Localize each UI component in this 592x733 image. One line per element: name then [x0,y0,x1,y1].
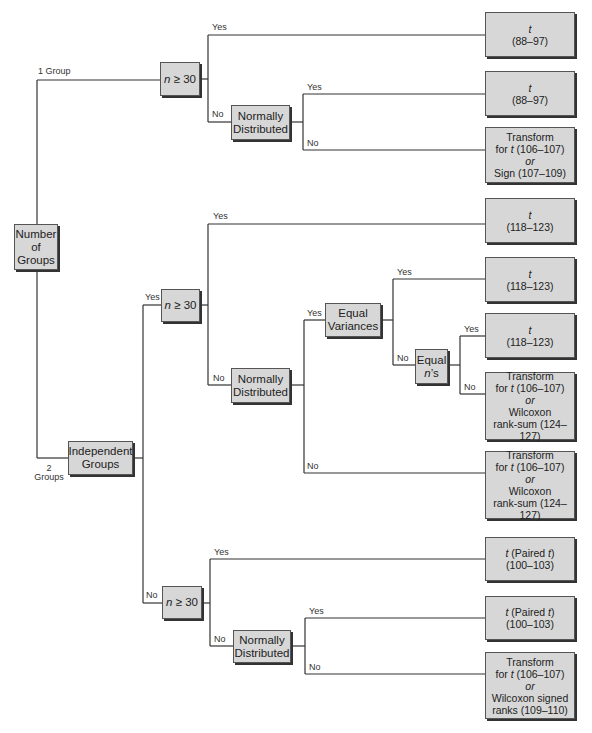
root-line: Groups [17,254,55,267]
text-line: (118–123) [506,336,553,348]
label-no: No [307,138,319,148]
leaf-transform-or-wilcoxon-rank-sum: Transform for t (106–107) or Wilcoxon ra… [485,372,575,440]
root-number-of-groups: Number of Groups [14,224,58,270]
text-line: Transform [506,449,553,461]
leaf-t-test: t (118–123) [485,198,575,243]
decision-n-ge-30: n ≥ 30 [160,62,200,96]
label-no: No [213,373,225,383]
n-ge-30-text: n ≥ 30 [166,596,198,609]
text-line: Sign (107–109) [494,167,566,179]
decision-normally-distributed: Normally Distributed [231,105,290,140]
text-line: Groups [82,458,120,471]
text-line: Distributed [235,647,290,660]
label-yes: Yes [309,606,324,616]
text-line: (118–123) [506,280,553,292]
label-no: No [214,634,226,644]
text-line: Normally [239,634,284,647]
text-line: for t (106–107) [496,382,565,394]
label-yes: Yes [307,82,322,92]
text-line: Variances [328,320,378,333]
text-line: t [529,268,532,280]
text-line: or [525,473,534,485]
text-line: n’s [424,367,439,380]
label-yes: Yes [213,211,228,221]
label-no: No [212,109,224,119]
decision-equal-ns: Equal n’s [415,349,448,384]
text-line: or [525,155,534,167]
text-line: (88–97) [512,94,548,106]
label-no: No [309,662,321,672]
text-line: Transform [506,370,553,382]
label-yes: Yes [307,308,322,318]
label-no: No [397,353,409,363]
leaf-t-test: t (118–123) [485,313,575,358]
decision-equal-variances: Equal Variances [325,303,381,337]
text-line: t [529,209,532,221]
text-line: or [525,680,534,692]
text-line: Normally [238,373,283,386]
text-line: Transform [506,656,553,668]
label-no: No [146,590,158,600]
text-line: Wilcoxon [509,485,552,497]
text-line: or [525,394,534,406]
text-line: t [529,23,532,35]
text-line: (100–103) [506,618,554,630]
n-ge-30-text: n ≥ 30 [164,73,196,86]
leaf-paired-t-test: t (Paired t) (100–103) [485,537,575,581]
leaf-transform-or-sign: Transform for t (106–107) or Sign (107–1… [485,127,575,183]
text-line: Normally [238,110,283,123]
text-line: for t (106–107) [496,143,565,155]
decision-n-ge-30: n ≥ 30 [162,586,202,619]
text-line: Wilcoxon signed [492,692,568,704]
text-line: ranks (109–110) [492,704,568,716]
n-ge-30-text: n ≥ 30 [165,299,197,312]
text-line: for t (106–107) [496,668,565,680]
root-line: Number [16,228,57,241]
label-yes: Yes [464,324,479,334]
decision-normally-distributed: Normally Distributed [233,630,291,663]
leaf-transform-or-wilcoxon-rank-sum: Transform for t (106–107) or Wilcoxon ra… [485,451,575,519]
text-line: (100–103) [506,559,554,571]
text-line: Equal [417,354,446,367]
text-line: Equal [338,307,367,320]
label-no: No [464,382,476,392]
text-line: t [529,324,532,336]
leaf-paired-t-test: t (Paired t) (100–103) [485,596,575,640]
leaf-t-test: t (118–123) [485,257,575,302]
text-line: t (Paired t) [505,547,554,559]
text-line: Distributed [233,386,288,399]
leaf-t-test: t (88–97) [485,71,575,116]
label-no: No [307,461,319,471]
text-line: (118–123) [506,221,553,233]
label-yes: Yes [145,292,160,302]
text-line: t (Paired t) [505,606,554,618]
text-line: for t (106–107) [496,461,565,473]
text-line: Distributed [233,123,288,136]
text-line: t [529,82,532,94]
decision-independent-groups: Independent Groups [68,441,133,475]
text-line: Wilcoxon [509,406,552,418]
decision-n-ge-30: n ≥ 30 [161,289,200,322]
root-line: of [31,241,41,254]
label-2-groups-word: Groups [34,472,64,482]
text-line: Transform [506,131,553,143]
label-yes: Yes [214,547,229,557]
leaf-t-test: t (88–97) [485,12,575,57]
leaf-transform-or-wilcoxon-signed-ranks: Transform for t (106–107) or Wilcoxon si… [485,652,575,719]
label-1-group: 1 Group [38,66,71,76]
text-line: Independent [69,445,133,458]
label-yes: Yes [397,267,412,277]
text-line: rank-sum (124–127) [486,418,574,442]
text-line: rank-sum (124–127) [486,497,574,521]
label-yes: Yes [212,22,227,32]
decision-normally-distributed: Normally Distributed [231,368,290,403]
text-line: (88–97) [512,35,548,47]
